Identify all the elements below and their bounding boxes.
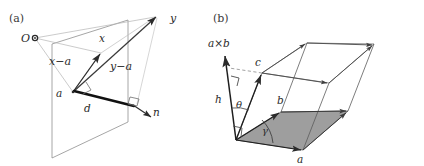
point-a-dot: [72, 91, 75, 94]
vector-n: [133, 105, 151, 117]
panel-b-group: (b) a×b h θ γ a b c: [208, 12, 374, 165]
label-point-y: y: [169, 12, 177, 25]
label-height-h: h: [215, 93, 222, 105]
dashed-projection-line: [229, 68, 262, 73]
vector-x-minus-a: [73, 54, 100, 92]
label-vector-c: c: [255, 56, 261, 68]
edge-c-back-right: [348, 44, 374, 111]
top-edge-arrow-back: [262, 44, 305, 73]
label-vector-y-minus-a: y−a: [109, 60, 132, 73]
right-angle-marker-at-a: [83, 82, 91, 94]
right-angle-marker-height: [231, 76, 239, 86]
figure-svg: (a) O x y a x−a y−a d n: [0, 0, 424, 166]
label-distance-d: d: [84, 102, 91, 114]
label-theta: θ: [236, 99, 242, 110]
figure-container: (a) O x y a x−a y−a d n: [0, 0, 424, 166]
label-vector-x-minus-a: x−a: [49, 55, 71, 68]
top-parallelogram: [262, 43, 374, 83]
vector-a-cross-b: [225, 56, 236, 140]
top-edge-arrow-left: [262, 73, 327, 83]
label-point-x: x: [99, 32, 105, 44]
panel-b-label: (b): [213, 12, 229, 25]
origin-point-dot: [34, 37, 36, 39]
vector-y-minus-a: [73, 17, 156, 92]
label-origin: O: [21, 32, 30, 45]
label-point-a: a: [56, 87, 62, 99]
top-edge-arrow-right: [329, 46, 372, 83]
panel-a-group: (a) O x y a x−a y−a d n: [9, 12, 177, 158]
label-normal-n: n: [153, 106, 160, 118]
panel-a-label: (a): [9, 12, 24, 25]
label-vector-b: b: [277, 94, 284, 106]
label-vector-a: a: [297, 153, 303, 165]
segment-d-thick: [74, 91, 134, 106]
base-parallelogram-shaded: [236, 111, 348, 150]
label-gamma: γ: [262, 125, 268, 136]
label-a-cross-b: a×b: [208, 37, 230, 49]
